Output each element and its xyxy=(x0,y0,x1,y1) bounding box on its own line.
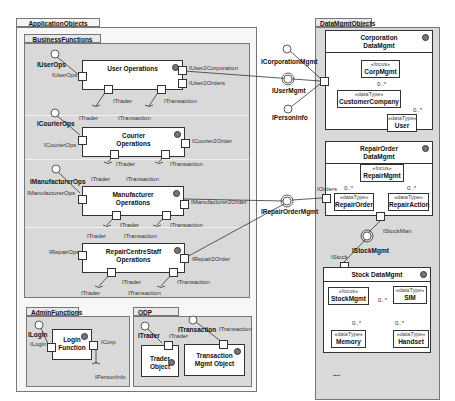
stereotype: «dataType» xyxy=(394,331,428,338)
port-user-itransaction[interactable] xyxy=(157,85,166,94)
component-name-line1: RepairCentreStaff xyxy=(83,248,184,256)
socket-label-itransaction: ITransaction xyxy=(126,176,159,183)
class-name: RepairOrder xyxy=(335,201,373,209)
port-label-itransaction: ITransaction xyxy=(219,326,252,333)
stereotype: «focus» xyxy=(362,61,399,68)
class-name: RepairMgmt xyxy=(361,172,403,180)
stereotype: «dataType» xyxy=(335,194,373,201)
port-label-itransaction: ITransaction xyxy=(177,279,210,286)
class-name: Handset xyxy=(394,338,428,346)
port-courier-itrader[interactable] xyxy=(110,150,119,159)
port-manufacturer-itrader[interactable] xyxy=(112,211,121,220)
port-label-imanufacturerops: IManufacturerOps xyxy=(27,190,75,197)
interface-label-iusermgmt: IUserMgmt xyxy=(272,87,306,94)
socket-label-itrader: ITrader xyxy=(81,290,100,297)
stereotype: «dataType» xyxy=(394,287,426,294)
port-courier-in[interactable] xyxy=(78,136,87,145)
ellipsis: .... xyxy=(333,370,340,377)
port-manufacturer2order[interactable] xyxy=(180,200,189,209)
class-name: CustomerCompany xyxy=(338,98,400,106)
interface-label-iuserops: IUserOps xyxy=(37,61,66,68)
port-repair-in[interactable] xyxy=(78,251,87,260)
class-name: Memory xyxy=(332,338,365,346)
port-courier-itransaction[interactable] xyxy=(161,150,170,159)
port-label-istock: IStock xyxy=(331,254,348,261)
port-courier2order[interactable] xyxy=(181,139,190,148)
port-manufacturer-itransaction[interactable] xyxy=(162,211,171,220)
component-transaction-mgmt-object[interactable]: Transaction Mgmt Object xyxy=(184,344,245,376)
port-repair-data-in[interactable] xyxy=(322,194,331,203)
component-name: Stock DataMgmt xyxy=(352,271,403,278)
component-name-line2: DataMgmt xyxy=(326,153,432,161)
class-corpmgmt[interactable]: «focus» CorpMgmt xyxy=(361,60,400,78)
component-name-line2: Operations xyxy=(83,140,184,148)
component-user-operations[interactable]: User Operations xyxy=(82,60,183,90)
class-name: User xyxy=(388,122,416,130)
port-user-itrader[interactable] xyxy=(104,85,113,94)
socket-label-itransaction: ITransaction xyxy=(118,115,151,122)
port-label-icourierops: ICourierOps xyxy=(44,142,76,149)
interface-label-icorporationmgmt: ICorporationMgmt xyxy=(261,58,317,65)
interface-label-ipersoninfo: IPersonInfo xyxy=(272,114,308,121)
port-login-icorp[interactable] xyxy=(89,341,98,350)
component-name-line1: Courier xyxy=(83,132,184,140)
socket-label-itrader: ITrader xyxy=(79,115,98,122)
socket-label-itransaction: ITransaction xyxy=(128,290,161,297)
port-label-icourier2order: ICourier2Order xyxy=(192,138,232,145)
port-login-in[interactable] xyxy=(47,343,56,352)
stereotype: «dataType» xyxy=(388,115,416,122)
port-label-ilogin: ILogin xyxy=(30,341,46,348)
class-user[interactable]: «dataType» User xyxy=(387,114,417,132)
component-icon xyxy=(420,271,427,278)
stereotype: «dataType» xyxy=(332,331,365,338)
class-repairmgmt[interactable]: «focus» RepairMgmt xyxy=(360,164,404,182)
multiplicity: 0..* xyxy=(378,297,387,304)
component-name: User Operations xyxy=(107,65,158,72)
class-name: SIM xyxy=(394,294,426,302)
interface-label-imanufacturerops: IManufacturerOps xyxy=(30,178,86,185)
port-repair2order[interactable] xyxy=(180,254,189,263)
class-name: RepairAction xyxy=(389,201,428,209)
interface-label-itransaction: ITransaction xyxy=(178,326,216,333)
port-corp-data[interactable] xyxy=(320,77,329,86)
class-repairorder[interactable]: «dataType» RepairOrder xyxy=(334,193,374,211)
class-customercompany[interactable]: «dataType» CustomerCompany xyxy=(337,90,401,108)
multiplicity: 0..* xyxy=(413,107,422,114)
multiplicity: 0..* xyxy=(377,81,386,88)
interface-label-icourierops: ICourierOps xyxy=(37,120,75,127)
stereotype: «dataType» xyxy=(338,91,400,98)
component-icon xyxy=(422,34,429,41)
port-manufacturer-in[interactable] xyxy=(78,195,87,204)
component-login-function[interactable]: Login Function xyxy=(52,329,92,360)
port-trader[interactable] xyxy=(164,341,173,350)
port-label-itransaction: ITransaction xyxy=(170,222,203,229)
class-handset[interactable]: «dataType» Handset xyxy=(393,330,429,348)
component-icon xyxy=(174,131,181,138)
socket-label-itrader: ITrader xyxy=(91,176,110,183)
port-user2orders[interactable] xyxy=(178,79,187,88)
class-stockmgmt[interactable]: «focus» StockMgmt xyxy=(328,287,369,305)
port-user2corporation[interactable] xyxy=(178,66,187,75)
socket-label-ipersoninfo: IPersonInfo xyxy=(95,374,126,381)
port-transaction[interactable] xyxy=(219,340,228,349)
port-label-itrader: ITrader xyxy=(116,161,135,168)
port-label-itrader: ITrader xyxy=(122,279,141,286)
multiplicity: 0..* xyxy=(407,185,416,192)
port-label-iorders: IOrders xyxy=(317,186,337,193)
port-repair-itransaction[interactable] xyxy=(169,268,178,277)
class-sim[interactable]: «dataType» SIM xyxy=(393,286,427,304)
component-trader-object[interactable]: Trader Object xyxy=(141,345,179,377)
port-label-istockman: IStockMan xyxy=(383,228,411,235)
port-label-imanufacturer2order: IManufacturer2Order xyxy=(191,199,247,206)
class-memory[interactable]: «dataType» Memory xyxy=(331,330,366,348)
port-label-iuser2orders: IUser2Orders xyxy=(189,80,225,87)
class-repairaction[interactable]: «dataType» RepairAction xyxy=(388,193,429,211)
port-repair-itrader[interactable] xyxy=(107,268,116,277)
port-label-itrader: ITrader xyxy=(169,333,188,340)
port-repair-data-istockman[interactable] xyxy=(376,212,385,221)
port-user-in[interactable] xyxy=(78,72,87,81)
stereotype: «focus» xyxy=(361,165,403,172)
port-label-icorp: ICorp xyxy=(101,339,116,346)
interface-label-istockmgmt: IStockMgmt xyxy=(352,247,389,254)
multiplicity: 0..* xyxy=(352,320,361,327)
